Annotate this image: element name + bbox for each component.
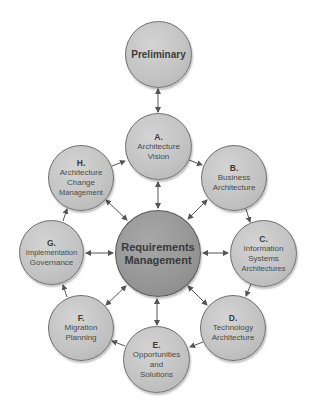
node-preliminary: Preliminary [125, 21, 192, 88]
node-label: Requirements [121, 241, 194, 254]
arrow-g-h [63, 209, 67, 221]
arrow-rm-d [188, 286, 207, 305]
arrow-h-a [112, 161, 125, 166]
node-label: Systems [248, 254, 279, 264]
node-phase-d: D. Technology Architecture [200, 295, 266, 361]
node-label: Information [243, 244, 283, 254]
node-phase-c: C. Information Systems Architectures [230, 220, 297, 287]
node-label: Implementation [26, 248, 77, 258]
node-phase-a: A. Architecture Vision [125, 113, 192, 180]
node-label: Governance [30, 258, 74, 268]
phase-letter: A. [154, 132, 163, 142]
node-label: Technology [213, 323, 253, 333]
node-phase-f: F. Migration Planning [48, 295, 114, 361]
node-label: Architecture [137, 142, 180, 152]
arrow-a-b [189, 160, 202, 165]
phase-letter: G. [47, 238, 56, 248]
arrow-f-g [63, 285, 67, 297]
node-phase-h: H. Architecture Change Management [48, 145, 114, 211]
adm-cycle-diagram: Preliminary A. Architecture Vision B. Bu… [0, 0, 315, 416]
node-label: Architecture [213, 183, 256, 193]
node-label: Change [67, 178, 95, 188]
arrow-e-f [112, 341, 125, 346]
node-label: Vision [148, 152, 170, 162]
node-label: and [150, 360, 163, 370]
node-label: Management [124, 254, 191, 267]
arrow-c-d [246, 284, 251, 296]
node-label: Architecture [212, 333, 255, 343]
node-label: Business [218, 173, 250, 183]
phase-letter: F. [78, 313, 85, 323]
phase-letter: H. [77, 158, 86, 168]
arrow-b-c [246, 209, 250, 222]
node-phase-e: E. Opportunities and Solutions [123, 326, 190, 393]
arrow-d-e [190, 342, 203, 347]
node-requirements-management: Requirements Management [115, 210, 201, 297]
arrow-rm-b [188, 200, 207, 219]
node-label: Solutions [140, 370, 173, 380]
arrow-rm-h [106, 200, 127, 220]
phase-letter: C. [259, 234, 268, 244]
arrow-rm-f [106, 286, 126, 305]
phase-letter: B. [230, 163, 239, 173]
node-label: Planning [65, 333, 96, 343]
node-label: Management [59, 188, 103, 198]
phase-letter: D. [229, 313, 238, 323]
node-label: Migration [65, 323, 98, 333]
node-phase-b: B. Business Architecture [201, 145, 267, 211]
node-label: Architectures [242, 264, 286, 274]
phase-letter: E. [152, 340, 160, 350]
node-label: Preliminary [131, 50, 185, 60]
node-label: Opportunities [133, 350, 181, 360]
node-label: Architecture [60, 168, 103, 178]
node-phase-g: G. Implementation Governance [19, 220, 84, 285]
